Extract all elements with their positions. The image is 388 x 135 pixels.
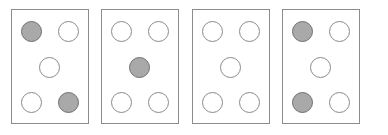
dot-top-left-filled-icon[interactable] <box>21 21 42 42</box>
dot-bottom-left-empty-icon[interactable] <box>202 92 223 113</box>
dot-top-left-empty-icon[interactable] <box>202 21 223 42</box>
dot-center-empty-icon[interactable] <box>220 57 241 78</box>
dot-top-right-empty-icon[interactable] <box>58 21 79 42</box>
card[interactable] <box>192 9 270 124</box>
dot-bottom-right-empty-icon[interactable] <box>148 92 169 113</box>
diagram-canvas <box>0 0 388 135</box>
dot-top-right-empty-icon[interactable] <box>148 21 169 42</box>
card[interactable] <box>11 9 89 124</box>
dot-bottom-right-empty-icon[interactable] <box>239 92 260 113</box>
dot-bottom-right-filled-icon[interactable] <box>58 92 79 113</box>
dot-bottom-left-filled-icon[interactable] <box>292 92 313 113</box>
card[interactable] <box>282 9 360 124</box>
dot-top-left-filled-icon[interactable] <box>292 21 313 42</box>
dot-top-right-empty-icon[interactable] <box>329 21 350 42</box>
dot-top-left-empty-icon[interactable] <box>111 21 132 42</box>
dot-center-filled-icon[interactable] <box>129 57 150 78</box>
dot-center-empty-icon[interactable] <box>310 57 331 78</box>
card[interactable] <box>101 9 179 124</box>
dot-center-empty-icon[interactable] <box>39 57 60 78</box>
dot-top-right-empty-icon[interactable] <box>239 21 260 42</box>
dot-bottom-left-empty-icon[interactable] <box>21 92 42 113</box>
dot-bottom-right-empty-icon[interactable] <box>329 92 350 113</box>
dot-bottom-left-empty-icon[interactable] <box>111 92 132 113</box>
